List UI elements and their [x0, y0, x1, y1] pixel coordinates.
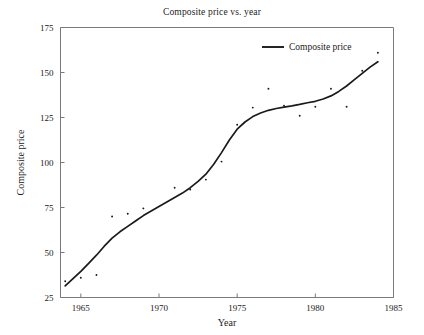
chart-figure: Composite price vs. year 255075100125150…	[0, 0, 424, 335]
data-point	[267, 88, 269, 90]
y-axis-label: Composite price	[15, 129, 26, 195]
plot-area: 255075100125150175 19651970197519801985 …	[0, 0, 424, 335]
data-point	[236, 124, 238, 126]
data-point	[64, 280, 66, 282]
data-point	[96, 274, 98, 276]
data-point	[221, 161, 223, 163]
series-line-composite-price	[65, 62, 378, 286]
data-point	[189, 189, 191, 191]
y-tick-label: 25	[45, 293, 55, 303]
data-point	[142, 207, 144, 209]
data-point	[283, 105, 285, 107]
data-point	[252, 107, 254, 109]
data-point	[314, 106, 316, 108]
data-point	[330, 88, 332, 90]
series-points-composite-price	[64, 52, 379, 282]
data-point	[361, 70, 363, 72]
x-tick-label: 1980	[306, 303, 325, 313]
x-axis-label: Year	[218, 317, 237, 328]
data-point	[127, 213, 129, 215]
x-tick-label: 1970	[150, 303, 169, 313]
y-tick-label: 125	[40, 113, 54, 123]
axes	[61, 28, 394, 298]
legend: Composite price	[262, 42, 352, 52]
x-tick-label: 1985	[385, 303, 404, 313]
x-tick-label: 1965	[72, 303, 91, 313]
y-tick-label: 175	[40, 23, 54, 33]
data-point	[174, 187, 176, 189]
x-tick-label: 1975	[228, 303, 247, 313]
y-tick-label: 150	[40, 68, 54, 78]
data-point	[111, 216, 113, 218]
data-point	[299, 115, 301, 117]
legend-label-composite-price: Composite price	[289, 42, 352, 52]
y-tick-label: 50	[45, 248, 55, 258]
data-point	[205, 179, 207, 181]
x-axis-ticks: 19651970197519801985	[72, 294, 403, 313]
trend-line	[65, 62, 378, 286]
data-point	[80, 277, 82, 279]
y-tick-label: 100	[40, 158, 54, 168]
data-point	[377, 52, 379, 54]
y-tick-label: 75	[45, 203, 55, 213]
data-point	[346, 106, 348, 108]
